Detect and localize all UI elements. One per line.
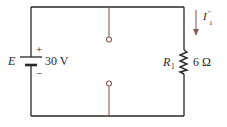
plus-sign: + xyxy=(36,43,42,55)
minus-sign: − xyxy=(36,67,42,79)
resistor-value-label: 6 Ω xyxy=(193,55,211,69)
current-prime-label: ″ xyxy=(208,9,211,17)
source-value-label: 30 V xyxy=(45,54,69,68)
current-arrow-icon xyxy=(193,10,199,36)
resistor-icon xyxy=(180,50,187,74)
battery-icon xyxy=(20,57,42,65)
resistor-subscript-label: 1 xyxy=(171,62,175,71)
open-branch xyxy=(107,7,112,116)
circuit-diagram: + − E 30 V R 1 6 Ω I ″ 1 xyxy=(0,0,227,127)
source-name-label: E xyxy=(7,54,16,68)
lower-terminal-icon xyxy=(107,81,112,86)
upper-terminal-icon xyxy=(107,37,112,42)
resistor-name-label: R xyxy=(162,55,171,69)
current-subscript-label: 1 xyxy=(209,19,213,27)
